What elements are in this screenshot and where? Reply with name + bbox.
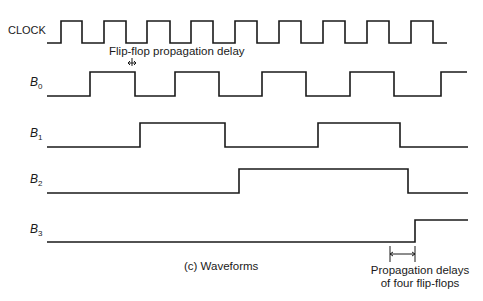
four-delays-label-line1: Propagation delays [371, 264, 470, 276]
signal-label-b1: B1 [30, 126, 43, 142]
signal-label-b3: B3 [30, 222, 43, 238]
flipflop-delay-arrow-icon [128, 58, 136, 66]
figure-caption: (c) Waveforms [184, 260, 259, 272]
waveform-b2 [47, 169, 468, 193]
flipflop-delay-label: Flip-flop propagation delay [109, 45, 245, 57]
waveform-b3 [47, 220, 468, 242]
waveform-b0 [47, 72, 467, 96]
signal-label-b0: B0 [30, 75, 43, 91]
signal-label-b2: B2 [30, 172, 43, 188]
four-delays-arrow-icon [390, 246, 415, 262]
signal-label-clock: CLOCK [8, 24, 47, 36]
four-delays-label-line2: of four flip-flops [381, 277, 460, 289]
waveform-clock [47, 21, 447, 43]
waveform-b1 [47, 123, 468, 147]
timing-diagram: CLOCKB0B1B2B3 Flip-flop propagation dela… [0, 0, 483, 301]
